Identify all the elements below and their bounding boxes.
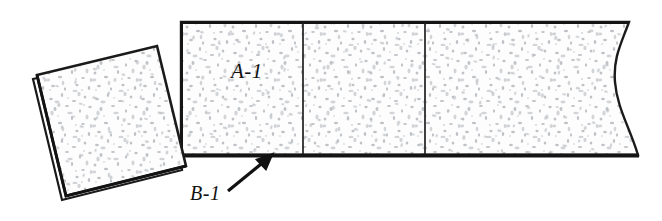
slab-label-a1: A-1 [229,59,263,83]
b1-leader-arrow [228,154,273,192]
rotated-tile [30,40,195,205]
strip-texture [175,16,645,161]
tile-texture [30,40,195,205]
technical-illustration: A-1 B-1 [0,0,662,221]
figure-canvas: A-1 B-1 [0,0,662,221]
edge-label-b1: B-1 [190,182,220,204]
long-strip [175,16,645,161]
